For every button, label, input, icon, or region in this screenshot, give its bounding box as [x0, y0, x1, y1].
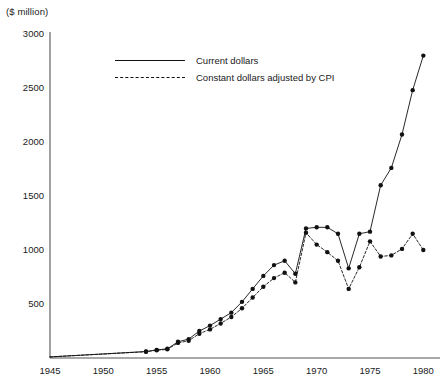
data-point — [389, 166, 393, 170]
legend-item-current-dollars: Current dollars — [115, 52, 334, 69]
data-point — [144, 350, 148, 354]
data-point — [378, 254, 382, 258]
data-point — [346, 266, 350, 270]
data-point — [325, 250, 329, 254]
data-point — [250, 295, 254, 299]
data-point — [325, 225, 329, 229]
x-tick-1955: 1955 — [134, 366, 180, 376]
data-point — [400, 247, 404, 251]
data-point — [410, 88, 414, 92]
x-tick-1980: 1980 — [400, 366, 445, 376]
data-point — [378, 183, 382, 187]
data-point — [250, 287, 254, 291]
data-point — [229, 315, 233, 319]
chart-legend: Current dollars Constant dollars adjuste… — [115, 52, 334, 86]
data-point — [261, 285, 265, 289]
x-tick-1960: 1960 — [187, 366, 233, 376]
legend-label-constant-dollars: Constant dollars adjusted by CPI — [196, 72, 334, 83]
data-point — [336, 232, 340, 236]
data-point — [197, 332, 201, 336]
series-line-0 — [50, 56, 423, 357]
data-point — [208, 323, 212, 327]
data-point — [357, 232, 361, 236]
y-tick-500: 500 — [0, 299, 44, 309]
data-point — [186, 339, 190, 343]
data-point — [336, 259, 340, 263]
y-tick-3000: 3000 — [0, 29, 44, 39]
x-tick-1945: 1945 — [27, 366, 73, 376]
data-point — [389, 253, 393, 257]
data-point — [346, 287, 350, 291]
data-point — [240, 300, 244, 304]
x-tick-1975: 1975 — [347, 366, 393, 376]
data-point — [218, 321, 222, 325]
y-tick-1000: 1000 — [0, 245, 44, 255]
data-point — [272, 276, 276, 280]
data-point — [165, 347, 169, 351]
data-point — [314, 225, 318, 229]
data-point — [410, 232, 414, 236]
data-point — [282, 259, 286, 263]
data-point — [154, 348, 158, 352]
y-tick-2500: 2500 — [0, 83, 44, 93]
data-point — [229, 310, 233, 314]
data-point — [208, 327, 212, 331]
series-line-1 — [50, 233, 423, 357]
data-point — [304, 226, 308, 230]
x-tick-1970: 1970 — [294, 366, 340, 376]
data-point — [368, 239, 372, 243]
data-point — [272, 263, 276, 267]
data-point — [421, 53, 425, 57]
y-tick-2000: 2000 — [0, 137, 44, 147]
legend-swatch-dashed-line — [115, 77, 185, 78]
data-point — [314, 242, 318, 246]
data-point — [400, 132, 404, 136]
data-point — [218, 317, 222, 321]
y-tick-1500: 1500 — [0, 191, 44, 201]
data-point — [293, 280, 297, 284]
x-tick-1965: 1965 — [240, 366, 286, 376]
legend-label-current-dollars: Current dollars — [196, 55, 258, 66]
data-point — [357, 265, 361, 269]
data-point — [304, 231, 308, 235]
legend-item-constant-dollars: Constant dollars adjusted by CPI — [115, 69, 334, 86]
chart-container: ($ million) 50010001500200025003000 1945… — [0, 0, 445, 386]
data-point — [240, 306, 244, 310]
data-point — [261, 274, 265, 278]
data-point — [282, 270, 286, 274]
x-tick-1950: 1950 — [80, 366, 126, 376]
data-point — [176, 341, 180, 345]
legend-swatch-solid-line — [115, 60, 185, 61]
data-point — [368, 229, 372, 233]
data-point — [421, 248, 425, 252]
